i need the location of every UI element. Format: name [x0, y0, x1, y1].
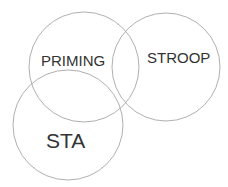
priming-label: PRIMING [41, 53, 105, 68]
venn-diagram [0, 0, 228, 187]
sta-circle [13, 70, 123, 180]
stroop-label: STROOP [147, 50, 210, 65]
sta-label: STA [46, 130, 85, 151]
stroop-circle [112, 13, 220, 121]
